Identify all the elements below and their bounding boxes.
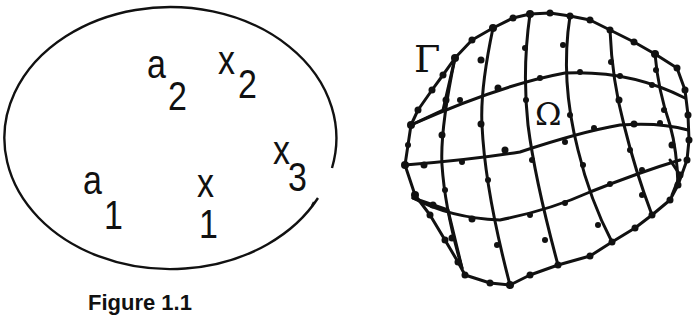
label-a2-sub: 2 (168, 76, 187, 116)
ellipse-figure: a 2 x 2 x 3 a 1 x 1 Figure 1.1 (0, 0, 360, 311)
boundary-label-gamma: Γ (414, 40, 440, 78)
label-x1-sub: 1 (199, 204, 218, 244)
label-x2-base: x (218, 40, 235, 80)
label-a1-sub: 1 (104, 195, 123, 235)
domain-label-omega: Ω (535, 98, 562, 130)
label-a2-base: a (147, 44, 166, 84)
mesh-figure: Γ Ω (380, 0, 694, 311)
label-x3-sub: 3 (288, 157, 307, 197)
figure-caption: Figure 1.1 (88, 290, 192, 316)
mesh-col-3 (525, 14, 558, 265)
label-x2-sub: 2 (238, 64, 257, 104)
label-x1-base: x (197, 163, 214, 203)
label-a1-base: a (83, 160, 102, 200)
boundary-curve (405, 13, 689, 285)
